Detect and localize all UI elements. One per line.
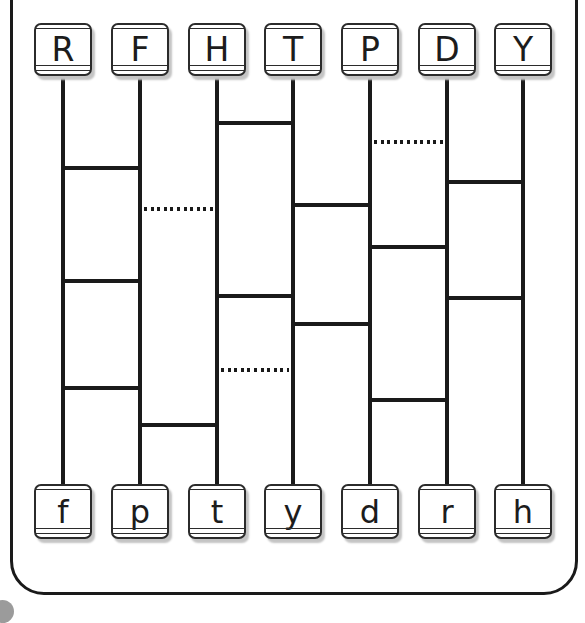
top-tile-T[interactable]: T [264, 23, 322, 76]
rung-P-D [368, 398, 449, 402]
top-tile-F[interactable]: F [111, 23, 169, 76]
top-tile-P[interactable]: P [341, 23, 399, 76]
tile-label: h [513, 496, 533, 528]
ladder-line-D [445, 72, 449, 490]
bottom-tile-y[interactable]: y [264, 484, 322, 539]
tile-label: t [211, 496, 224, 528]
bottom-tile-t[interactable]: t [188, 484, 246, 539]
top-tile-R[interactable]: R [34, 23, 92, 76]
tile-label: R [52, 33, 75, 66]
rung-T-P [291, 322, 372, 326]
tile-label: f [57, 496, 68, 528]
rung-R-F [61, 279, 142, 283]
rung-H-T [215, 294, 295, 298]
tile-label: P [360, 33, 380, 66]
rung-F-H-dotted [144, 207, 213, 211]
ladder-line-H [215, 72, 219, 490]
tile-label: r [440, 496, 453, 528]
rung-P-D [368, 245, 449, 249]
tile-label: Y [513, 33, 533, 66]
top-tile-H[interactable]: H [188, 23, 246, 76]
bottom-tile-d[interactable]: d [341, 484, 399, 539]
ladder-line-Y [521, 72, 525, 490]
bottom-tile-f[interactable]: f [34, 484, 92, 539]
rung-P-D-dotted [374, 140, 443, 144]
tile-label: p [130, 496, 150, 528]
rung-T-P [291, 203, 372, 207]
rung-H-T-dotted [221, 368, 289, 372]
bottom-tile-h[interactable]: h [494, 484, 552, 539]
tile-label: y [284, 496, 303, 528]
ladder-line-P [368, 72, 372, 490]
rung-H-T [215, 121, 295, 125]
bottom-tile-r[interactable]: r [418, 484, 476, 539]
tile-label: F [131, 33, 150, 66]
rung-D-Y [445, 180, 525, 184]
top-tile-Y[interactable]: Y [494, 23, 552, 76]
top-tile-D[interactable]: D [418, 23, 476, 76]
rung-R-F [61, 166, 142, 170]
page-number-bubble [0, 600, 14, 623]
rung-D-Y [445, 296, 525, 300]
tile-label: H [205, 33, 230, 66]
rung-R-F [61, 386, 142, 390]
tile-label: T [283, 33, 303, 66]
ladder-line-T [291, 72, 295, 490]
tile-label: d [360, 496, 380, 528]
bottom-tile-p[interactable]: p [111, 484, 169, 539]
rung-F-H [138, 423, 219, 427]
tile-label: D [434, 33, 459, 66]
